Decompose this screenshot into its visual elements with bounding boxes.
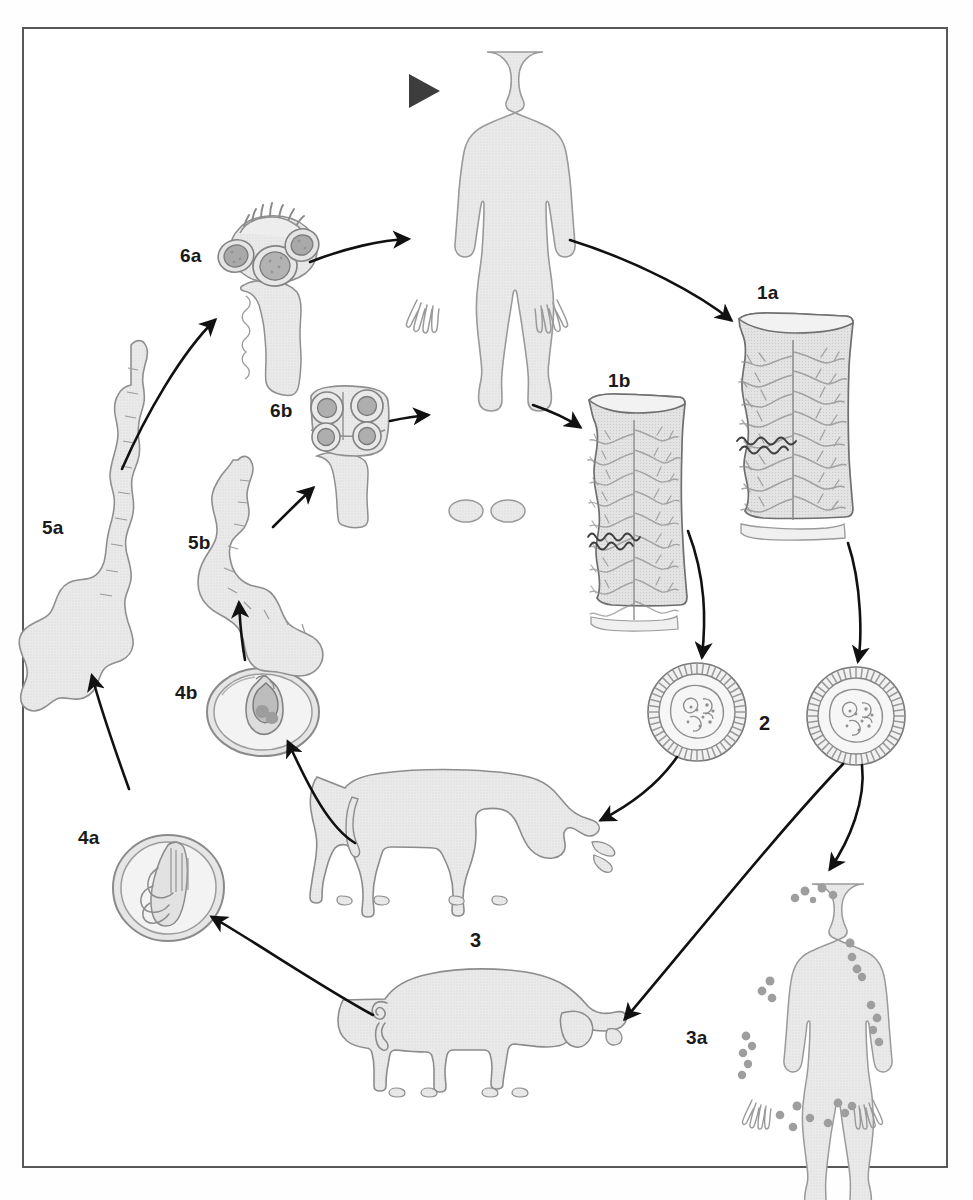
arrow-egg-right-to-human-3a [830,765,863,869]
label-2: 2 [759,713,770,733]
label-6a: 6a [180,246,202,265]
scolex-6b-four-suckers [311,386,389,528]
label-6b: 6b [270,401,293,420]
arrow-1b-to-egg-left [688,531,704,657]
definitive-host-human [406,52,575,522]
cysticercus-4b [207,668,319,756]
pig-silhouette [338,969,626,1097]
arrow-human-to-1b [533,405,580,427]
taeniid-egg-left [648,663,746,761]
life-cycle-figure: 1a 1b 2 3 3a 4a 4b 5a 5b 6a 6b [0,0,973,1200]
gravid-proglottid-1a [737,313,853,540]
label-1a: 1a [757,283,779,302]
arrow-4a-to-5a [92,676,129,789]
label-4a: 4a [78,828,100,847]
human-with-cysticerci [738,884,892,1200]
larva-5a [19,341,147,711]
arrow-egg-left-to-cow [601,757,677,820]
gravid-proglottid-1b [588,394,687,631]
arrow-pig-to-4a [212,917,373,1015]
label-4b: 4b [175,683,198,702]
diagram-canvas [0,0,973,1200]
label-5a: 5a [42,518,64,537]
entry-marker-triangle-icon [409,74,440,108]
taeniid-egg-right [807,667,905,765]
label-3a: 3a [686,1028,708,1047]
arrow-1a-to-egg-right [848,543,860,661]
arrow-5b-to-6b [273,488,313,527]
scolex-6a-with-rostellum [214,203,324,395]
arrow-human-to-1a [570,240,731,320]
arrow-6b-to-human [390,415,428,421]
label-1b: 1b [608,371,631,390]
cysticercus-4a [113,835,224,941]
arrow-6a-to-human [310,239,408,262]
label-5b: 5b [188,533,211,552]
larva-5b [198,456,323,676]
label-3: 3 [470,930,481,950]
